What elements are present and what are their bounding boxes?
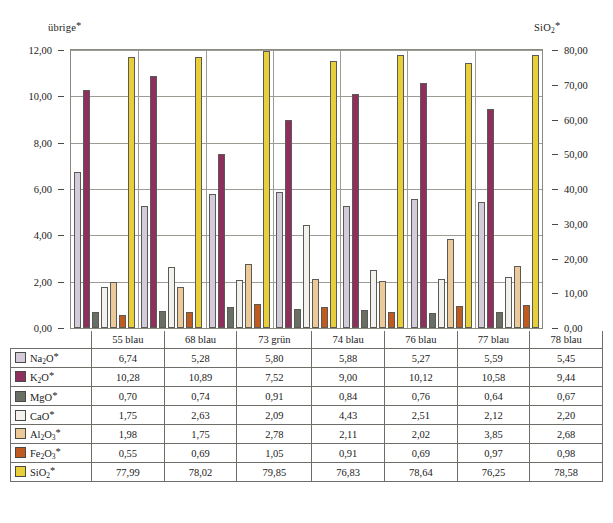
left-axis-tick-label: 6,00 (34, 184, 52, 195)
table-row: Fe2O3*0,550,691,050,910,690,970,98 (11, 444, 603, 463)
right-axis-tick-label: 50,00 (564, 149, 588, 160)
table-cell: 0,67 (530, 387, 603, 406)
bar-cao-6 (505, 277, 512, 328)
legend-label-text: SiO2* (30, 465, 55, 480)
table-cell: 2,02 (384, 425, 457, 444)
table-cell: 5,28 (164, 349, 237, 368)
table-column-header: 77 blau (457, 331, 530, 349)
left-axis-tickmark (58, 282, 64, 283)
table-row-label: Na2O* (11, 349, 92, 368)
right-axis-tick-label: 40,00 (564, 184, 588, 195)
table-cell: 10,28 (92, 368, 165, 387)
left-axis-tickmark (58, 328, 64, 329)
table-row: SiO2*77,9978,0279,8576,8378,6476,2578,58 (11, 463, 603, 482)
table-cell: 0,55 (92, 444, 165, 463)
bar-cao-4 (370, 270, 377, 328)
table-column-header: 78 blau (530, 331, 603, 349)
bar-fe2o3-1 (186, 312, 193, 328)
bar-sio2-5 (465, 63, 472, 328)
right-axis-tickmark (552, 120, 558, 121)
table-cell: 0,74 (164, 387, 237, 406)
left-axis-title: übrige* (48, 20, 81, 33)
table-row: CaO*1,752,632,094,432,512,122,20 (11, 406, 603, 425)
chart-page: übrige* SiO2* 0,002,004,006,008,0010,001… (0, 0, 613, 523)
right-axis-tick-label: 20,00 (564, 253, 588, 264)
right-axis-ticks: 0,0010,0020,0030,0040,0050,0060,0070,008… (552, 49, 608, 329)
plot-area (70, 49, 543, 329)
category-separator (206, 50, 207, 328)
table-cell: 6,74 (92, 349, 165, 368)
bar-k2o-0 (83, 90, 90, 328)
bar-al2o3-3 (312, 279, 319, 328)
table-cell: 2,09 (237, 406, 312, 425)
data-table: 55 blau68 blau73 grün74 blau76 blau77 bl… (10, 331, 603, 482)
bar-al2o3-4 (379, 281, 386, 328)
legend-swatch-icon (15, 428, 26, 439)
right-axis-tickmark (552, 259, 558, 260)
left-axis-tick-label: 12,00 (28, 45, 52, 56)
left-axis-ticks: 0,002,004,006,008,0010,0012,00 (10, 49, 64, 329)
table-column-header: 74 blau (312, 331, 385, 349)
bar-na2o-6 (478, 202, 485, 328)
bar-sio2-6 (532, 55, 539, 328)
table-row-label: MgO* (11, 387, 92, 406)
category-separator (138, 50, 139, 328)
bar-na2o-2 (209, 194, 216, 328)
table-cell: 0,84 (312, 387, 385, 406)
table-cell: 79,85 (237, 463, 312, 482)
bar-na2o-3 (276, 192, 283, 328)
legend-swatch-icon (15, 447, 26, 458)
left-axis-tickmark (58, 235, 64, 236)
bar-fe2o3-6 (523, 305, 530, 328)
category-separator (407, 50, 408, 328)
category-separator (340, 50, 341, 328)
right-axis-tickmark (552, 50, 558, 51)
right-axis-title: SiO2* (534, 20, 560, 35)
table-cell: 5,27 (384, 349, 457, 368)
bar-al2o3-5 (447, 239, 454, 328)
table-cell: 1,75 (164, 425, 237, 444)
table-column-header: 68 blau (164, 331, 237, 349)
table-cell: 9,44 (530, 368, 603, 387)
right-axis-tickmark (552, 224, 558, 225)
bar-sio2-1 (195, 57, 202, 328)
table-cell: 76,83 (312, 463, 385, 482)
table-cell: 10,89 (164, 368, 237, 387)
bar-mgo-1 (159, 311, 166, 328)
bar-mgo-3 (294, 309, 301, 328)
bar-fe2o3-0 (119, 315, 126, 328)
table-column-header: 76 blau (384, 331, 457, 349)
table-cell: 7,52 (237, 368, 312, 387)
left-axis-tickmark (58, 189, 64, 190)
bar-cao-1 (168, 267, 175, 328)
legend-label-text: MgO* (30, 390, 57, 403)
right-axis-tick-label: 80,00 (564, 45, 588, 56)
left-axis-tickmark (58, 96, 64, 97)
legend-label-text: Al2O3* (30, 427, 61, 442)
table-cell: 77,99 (92, 463, 165, 482)
table-row-label: Al2O3* (11, 425, 92, 444)
bar-cao-2 (236, 280, 243, 328)
left-axis-tick-label: 10,00 (28, 91, 52, 102)
table-row: Na2O*6,745,285,805,885,275,595,45 (11, 349, 603, 368)
table-cell: 5,59 (457, 349, 530, 368)
table-corner-cell (11, 331, 92, 349)
bar-mgo-6 (496, 312, 503, 328)
legend-swatch-icon (15, 391, 26, 402)
left-axis-tickmark (58, 143, 64, 144)
table-cell: 9,00 (312, 368, 385, 387)
legend-label-text: CaO* (30, 409, 55, 422)
bar-mgo-5 (429, 313, 436, 328)
table-cell: 5,45 (530, 349, 603, 368)
table-cell: 1,75 (92, 406, 165, 425)
bar-mgo-0 (92, 312, 99, 328)
table-row: Al2O3*1,981,752,782,112,023,852,68 (11, 425, 603, 444)
bar-sio2-3 (330, 61, 337, 328)
table-cell: 3,85 (457, 425, 530, 444)
legend-swatch-icon (15, 371, 26, 382)
table-cell: 78,02 (164, 463, 237, 482)
left-axis-tickmark (58, 50, 64, 51)
table-cell: 5,80 (237, 349, 312, 368)
table-cell: 0,69 (384, 444, 457, 463)
right-axis-tickmark (552, 154, 558, 155)
